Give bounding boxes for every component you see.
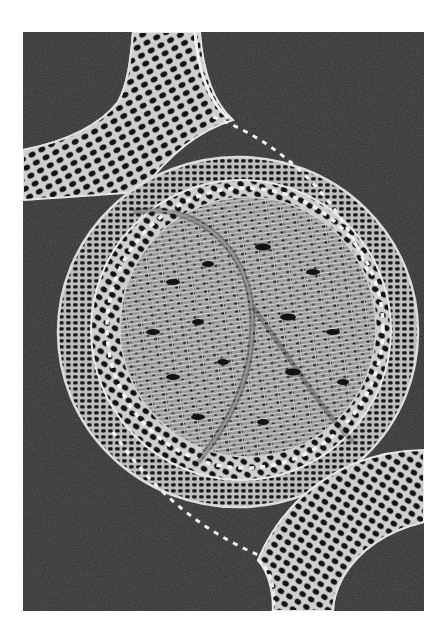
lace-photograph: Black and white photograph of knitted la… bbox=[23, 32, 424, 611]
lace-medallion bbox=[58, 157, 418, 507]
lace-illustration bbox=[23, 32, 424, 611]
page: Black and white photograph of knitted la… bbox=[0, 0, 445, 632]
